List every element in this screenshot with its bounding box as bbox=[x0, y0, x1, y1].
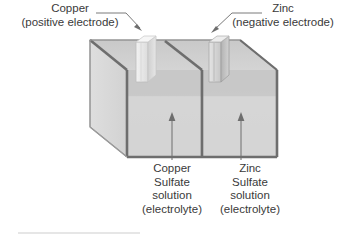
zinc-sulfate-line3: solution bbox=[212, 189, 288, 203]
zinc-callout-line2: (negative electrode) bbox=[214, 16, 352, 30]
zinc-sulfate-line1: Zinc bbox=[212, 162, 288, 176]
copper-electrode bbox=[136, 36, 156, 82]
copper-electrode-front-face bbox=[136, 42, 148, 82]
zinc-electrode bbox=[209, 36, 229, 82]
copper-callout-line1: Copper bbox=[4, 2, 136, 16]
copper-callout-label: Copper (positive electrode) bbox=[4, 2, 136, 29]
copper-callout-line2: (positive electrode) bbox=[4, 16, 136, 30]
zinc-callout-line1: Zinc bbox=[214, 2, 352, 16]
figure-canvas: Copper (positive electrode) Zinc (negati… bbox=[0, 0, 354, 235]
copper-electrode-side-face bbox=[148, 36, 156, 82]
copper-sulfate-line2: Sulfate bbox=[134, 176, 210, 190]
zinc-sulfate-line2: Sulfate bbox=[212, 176, 288, 190]
zinc-electrode-front-face bbox=[209, 42, 221, 82]
copper-sulfate-line3: solution bbox=[134, 189, 210, 203]
copper-sulfate-line4: (electrolyte) bbox=[134, 203, 210, 217]
zinc-callout-label: Zinc (negative electrode) bbox=[214, 2, 352, 29]
zinc-sulfate-label: Zinc Sulfate solution (electrolyte) bbox=[212, 162, 288, 216]
tank-assembly bbox=[90, 40, 277, 157]
zinc-sulfate-line4: (electrolyte) bbox=[212, 203, 288, 217]
zinc-electrode-side-face bbox=[221, 36, 229, 82]
copper-sulfate-label: Copper Sulfate solution (electrolyte) bbox=[134, 162, 210, 216]
copper-sulfate-line1: Copper bbox=[134, 162, 210, 176]
